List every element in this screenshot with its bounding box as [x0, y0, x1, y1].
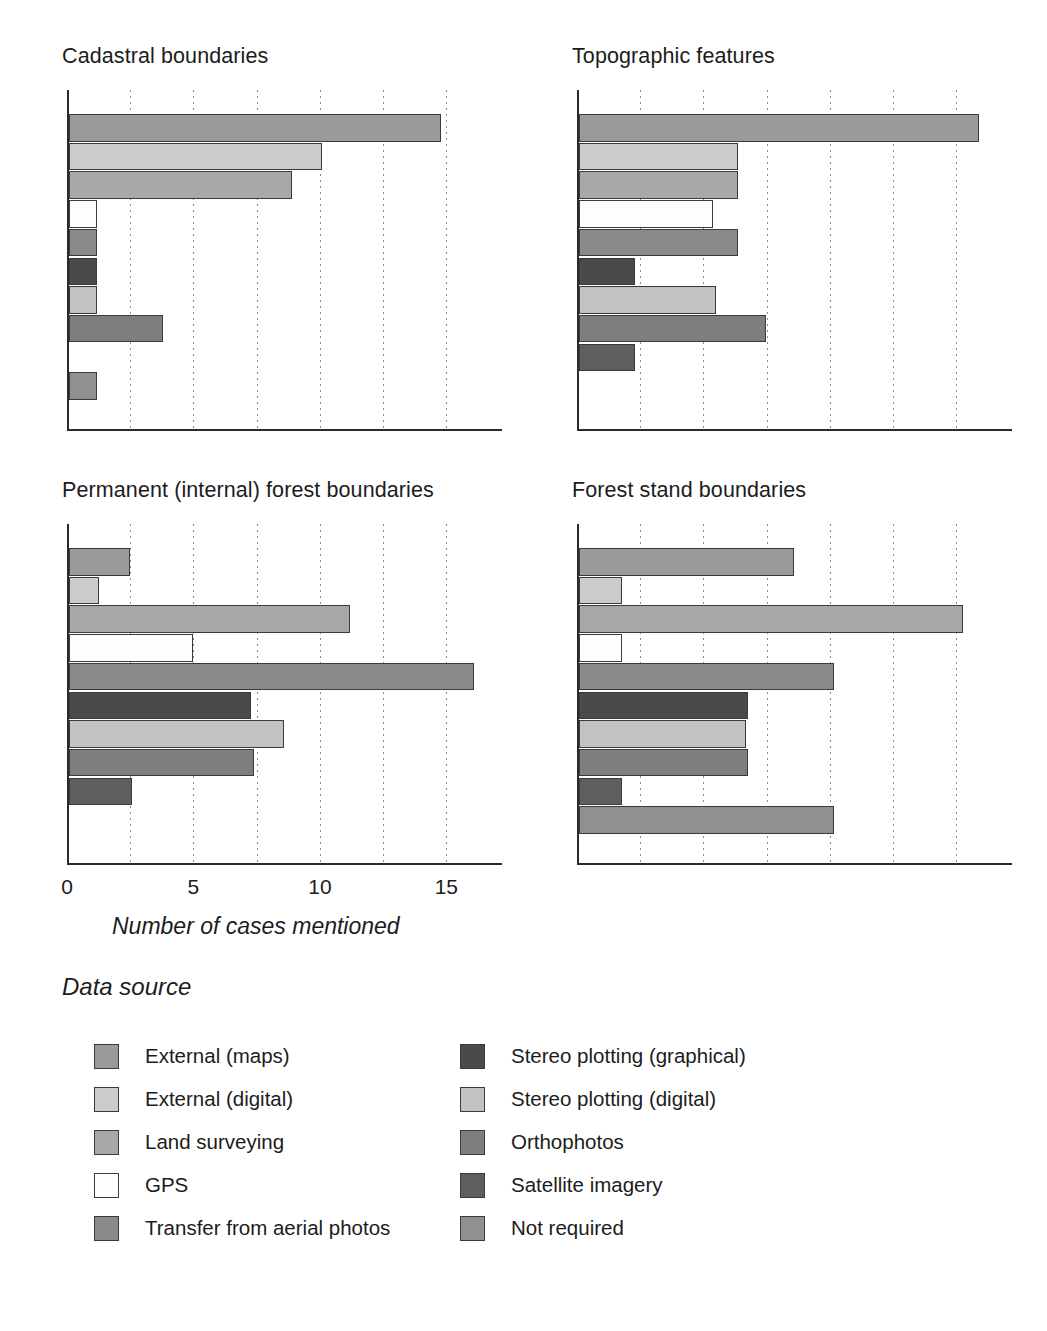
panel-title: Cadastral boundaries	[62, 46, 268, 68]
legend-item-label: Stereo plotting (digital)	[511, 1089, 716, 1110]
legend-swatch-icon	[460, 1130, 485, 1155]
bar	[69, 258, 97, 286]
bar	[69, 663, 474, 691]
legend-item[interactable]: External (digital)	[94, 1078, 494, 1121]
bar	[579, 720, 746, 748]
legend-item[interactable]: Stereo plotting (graphical)	[460, 1035, 880, 1078]
legend-item-label: Orthophotos	[511, 1132, 624, 1153]
bar	[69, 634, 193, 662]
bar	[579, 286, 716, 314]
bar	[69, 200, 97, 228]
bar	[69, 143, 322, 171]
panel-permanent-forest-boundaries: Permanent (internal) forest boundaries	[62, 480, 502, 870]
legend-item-label: Stereo plotting (graphical)	[511, 1046, 746, 1067]
legend-swatch-icon	[94, 1044, 119, 1069]
legend-item[interactable]: Satellite imagery	[460, 1164, 880, 1207]
legend-swatch-icon	[94, 1130, 119, 1155]
legend-item-label: Not required	[511, 1218, 624, 1239]
bar-group	[579, 90, 1012, 431]
bar	[579, 114, 979, 142]
bar	[579, 143, 738, 171]
bar-group	[69, 90, 502, 431]
legend-item-label: External (maps)	[145, 1046, 290, 1067]
bar	[69, 114, 441, 142]
bar	[579, 663, 834, 691]
legend-item[interactable]: External (maps)	[94, 1035, 494, 1078]
legend-item[interactable]: GPS	[94, 1164, 494, 1207]
bar	[579, 229, 738, 257]
bar	[69, 548, 130, 576]
bar	[579, 200, 713, 228]
bar	[69, 749, 254, 777]
panel-forest-stand-boundaries: Forest stand boundaries	[572, 480, 1012, 870]
legend-swatch-icon	[460, 1087, 485, 1112]
panel-title: Permanent (internal) forest boundaries	[62, 480, 434, 502]
x-tick-label: 0	[61, 876, 73, 897]
panel-title: Forest stand boundaries	[572, 480, 806, 502]
legend-swatch-icon	[460, 1216, 485, 1241]
bar	[69, 778, 132, 806]
legend-item[interactable]: Land surveying	[94, 1121, 494, 1164]
x-tick-label: 15	[435, 876, 458, 897]
legend-item-label: Land surveying	[145, 1132, 284, 1153]
bar	[579, 344, 635, 372]
x-axis-label: Number of cases mentioned	[112, 915, 400, 938]
bar	[579, 548, 794, 576]
bar	[579, 634, 622, 662]
x-tick-label: 5	[188, 876, 200, 897]
bar	[69, 171, 292, 199]
legend-item[interactable]: Stereo plotting (digital)	[460, 1078, 880, 1121]
panel-topographic-features: Topographic features	[572, 46, 1012, 436]
legend-item-label: Transfer from aerial photos	[145, 1218, 390, 1239]
bar	[579, 315, 766, 343]
legend-swatch-icon	[94, 1087, 119, 1112]
bar	[69, 692, 251, 720]
bar	[579, 258, 635, 286]
plot-area	[577, 90, 1012, 431]
legend-column-right: Stereo plotting (graphical)Stereo plotti…	[460, 1035, 880, 1250]
legend-swatch-icon	[460, 1173, 485, 1198]
legend-swatch-icon	[460, 1044, 485, 1069]
bar	[579, 577, 622, 605]
bar	[69, 372, 97, 400]
bar-group	[579, 524, 1012, 865]
panel-cadastral-boundaries: Cadastral boundaries	[62, 46, 502, 436]
legend-item-label: GPS	[145, 1175, 188, 1196]
legend-item-label: External (digital)	[145, 1089, 293, 1110]
bar-group	[69, 524, 502, 865]
panel-title: Topographic features	[572, 46, 775, 68]
bar	[579, 171, 738, 199]
bar	[579, 749, 748, 777]
bar	[69, 315, 163, 343]
legend-column-left: External (maps)External (digital)Land su…	[94, 1035, 494, 1250]
chart-figure: Cadastral boundaries Topographic feature…	[0, 0, 1047, 1331]
legend-item[interactable]: Not required	[460, 1207, 880, 1250]
legend: Data source External (maps)External (dig…	[62, 975, 962, 1275]
legend-swatch-icon	[94, 1216, 119, 1241]
bar	[69, 286, 97, 314]
bar	[69, 605, 350, 633]
plot-area	[67, 524, 502, 865]
bar	[69, 577, 99, 605]
plot-area	[577, 524, 1012, 865]
bar	[579, 778, 622, 806]
bar	[579, 806, 834, 834]
legend-title: Data source	[62, 975, 191, 999]
bar	[69, 720, 284, 748]
plot-area	[67, 90, 502, 431]
bar	[69, 229, 97, 257]
legend-item-label: Satellite imagery	[511, 1175, 663, 1196]
legend-item[interactable]: Orthophotos	[460, 1121, 880, 1164]
legend-swatch-icon	[94, 1173, 119, 1198]
bar	[579, 692, 748, 720]
bar	[579, 605, 963, 633]
legend-item[interactable]: Transfer from aerial photos	[94, 1207, 494, 1250]
x-axis-ticks: 051015	[67, 876, 507, 906]
x-tick-label: 10	[308, 876, 331, 897]
